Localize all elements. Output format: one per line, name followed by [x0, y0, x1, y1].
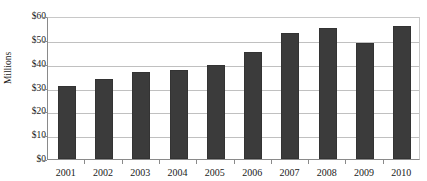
y-axis-tick-label: $50 [12, 36, 46, 46]
y-axis-tick-mark [42, 89, 47, 90]
y-axis-tick-mark [42, 17, 47, 18]
x-axis-tick-mark [308, 160, 309, 164]
y-axis-tick-label: $30 [12, 84, 46, 94]
bar[interactable] [58, 86, 76, 159]
y-axis-tick-label: $40 [12, 60, 46, 70]
y-axis-tick-mark [42, 41, 47, 42]
y-axis-tick-label: $20 [12, 107, 46, 117]
y-axis-tick-mark [42, 112, 47, 113]
x-axis-tick-mark [122, 160, 123, 164]
x-axis-tick-mark [234, 160, 235, 164]
bar[interactable] [356, 43, 374, 159]
x-axis-tick-label: 2001 [46, 167, 86, 179]
x-axis-tick-label: 2006 [232, 167, 272, 179]
bar[interactable] [319, 28, 337, 159]
bar[interactable] [95, 79, 113, 159]
bar[interactable] [393, 26, 411, 159]
x-axis-tick-label: 2005 [195, 167, 235, 179]
chart-title [14, 0, 414, 5]
bar[interactable] [207, 65, 225, 159]
bar[interactable] [281, 33, 299, 159]
x-axis-tick-label: 2004 [158, 167, 198, 179]
x-axis-tick-label: 2002 [83, 167, 123, 179]
bar[interactable] [170, 70, 188, 159]
x-axis-tick-label: 2008 [307, 167, 347, 179]
x-axis-tick-mark [345, 160, 346, 164]
x-axis-tick-label: 2007 [269, 167, 309, 179]
x-axis-tick-label: 2003 [120, 167, 160, 179]
x-axis-tick-mark [84, 160, 85, 164]
plot-area [47, 17, 420, 160]
y-axis-tick-mark [42, 65, 47, 66]
bar[interactable] [244, 52, 262, 159]
y-axis-tick-label: $0 [12, 155, 46, 165]
x-axis-tick-label: 2010 [381, 167, 421, 179]
x-axis-tick-mark [383, 160, 384, 164]
y-axis-tick-mark [42, 160, 47, 161]
bar[interactable] [132, 72, 150, 159]
x-axis-tick-mark [271, 160, 272, 164]
x-axis-tick-label: 2009 [344, 167, 384, 179]
y-axis-tick-label: $10 [12, 131, 46, 141]
x-axis-tick-mark [159, 160, 160, 164]
x-axis-tick-mark [196, 160, 197, 164]
y-axis-tick-mark [42, 136, 47, 137]
bar-chart: Millions $0$10$20$30$40$50$6020012002200… [0, 0, 427, 181]
y-axis-tick-label: $60 [12, 12, 46, 22]
